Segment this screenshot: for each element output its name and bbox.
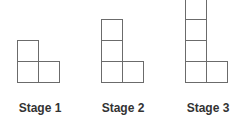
stage-1-figure bbox=[18, 41, 60, 83]
stage-2-label: Stage 2 bbox=[93, 101, 153, 115]
stage-3-figure bbox=[186, 0, 228, 83]
stage-3-label: Stage 3 bbox=[178, 101, 238, 115]
stage-pattern-diagram: Stage 1 Stage 2 Stage 3 bbox=[0, 0, 244, 125]
stage-2-figure bbox=[102, 20, 144, 83]
stage-1-label: Stage 1 bbox=[10, 101, 70, 115]
